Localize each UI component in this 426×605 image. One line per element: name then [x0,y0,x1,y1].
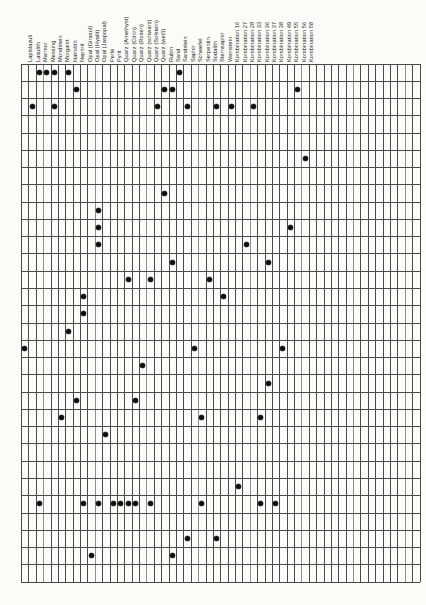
column-label: Rubin [168,47,175,62]
matrix-dot [37,70,42,75]
matrix-dot [170,553,175,558]
matrix-dot [118,501,123,506]
column-label: Lasulith [35,42,42,62]
matrix-dot [74,398,79,403]
matrix-dot [273,501,278,506]
matrix-dot [295,87,300,92]
grid-hline [21,357,420,358]
grid-hline [21,64,420,65]
grid-hline [21,374,420,375]
grid-hline [21,564,420,565]
grid-hline [21,392,420,393]
matrix-dot [221,294,226,299]
grid-hline [21,184,420,185]
matrix-dot [177,70,182,75]
grid-hline [21,495,420,496]
grid-hline [21,513,420,514]
column-label: Opal (Hyalit) [94,30,101,62]
matrix-dot [266,381,271,386]
column-label: Kombination 27 [242,22,249,62]
grid-hline [21,443,420,444]
matrix-dot [199,501,204,506]
matrix-dot [126,501,131,506]
matrix-dot [162,87,167,92]
matrix-dot [96,501,101,506]
grid-hline [21,115,420,116]
grid-hline [21,305,420,306]
column-label: Quarz (Amethyst) [123,17,130,62]
grid-hline [21,323,420,324]
column-label: Quarz (Citrin) [131,27,138,62]
column-label: Messing [50,40,57,62]
column-label: Kombination 33 [256,22,263,62]
column-label: Quarz (Solstein) [153,20,160,62]
grid-hline [21,167,420,168]
matrix-dot [133,501,138,506]
matrix-dot [236,484,241,489]
matrix-dot [74,87,79,92]
column-label: Pyrit [116,50,123,62]
column-label: Perle [109,48,116,62]
matrix-dot [44,70,49,75]
matrix-dot [133,398,138,403]
grid-hline [21,150,420,151]
matrix-dot [207,277,212,282]
matrix-dot [96,242,101,247]
column-label: Quarz (Rosen) [138,24,145,62]
grid-hline [21,547,420,548]
matrix-dot [59,415,64,420]
column-label: Kombination 16 [234,22,241,62]
matrix-dot [185,104,190,109]
matrix-dot [126,277,131,282]
matrix-dot [66,70,71,75]
matrix-dot [89,553,94,558]
column-label: Kombination 56 [301,22,308,62]
matrix-dot [37,501,42,506]
matrix-dot [266,260,271,265]
column-label: Serpentin [205,37,212,62]
mineral-combination-matrix: LapislazuliLasulithMarmorMessingMondstei… [0,0,426,605]
matrix-dot [170,87,175,92]
column-label: Quarz (schwarz) [146,19,153,62]
grid-vline [420,64,421,582]
grid-hline [21,81,420,82]
grid-hline [21,409,420,410]
matrix-dot [185,536,190,541]
matrix-dot [288,225,293,230]
grid-hline [21,288,420,289]
matrix-dot [155,104,160,109]
matrix-dot [170,260,175,265]
grid-hline [21,236,420,237]
column-label: Saphir [190,45,197,62]
grid-hline [21,340,420,341]
matrix-dot [103,432,108,437]
grid-hline [21,202,420,203]
column-label: Sodalith [212,41,219,62]
column-label: Schwefel [197,39,204,63]
matrix-dot [148,277,153,282]
grid-hline [21,582,420,583]
matrix-dot [66,329,71,334]
column-label: Kombination 58 [308,22,315,62]
matrix-dot [81,294,86,299]
column-label: Lapislazuli [27,35,34,62]
matrix-dot [258,415,263,420]
column-label: Kombination 37 [271,22,278,62]
matrix-dot [214,104,219,109]
matrix-dot [81,501,86,506]
matrix-dot [214,536,219,541]
column-label: Quarz (weiß) [160,28,167,62]
column-label: Mondstein [57,35,64,62]
matrix-dot [229,104,234,109]
column-label: Kombination 49 [286,22,293,62]
matrix-dot [30,104,35,109]
matrix-dot [140,363,145,368]
column-label: Kombination 55 [293,22,300,62]
column-label: Sandstein [182,36,189,62]
matrix-dot [81,311,86,316]
column-label: Weinstein [227,37,234,62]
grid-hline [21,133,420,134]
column-label: Kombination 36 [264,22,271,62]
column-label: Kombination 38 [278,22,285,62]
grid-hline [21,426,420,427]
